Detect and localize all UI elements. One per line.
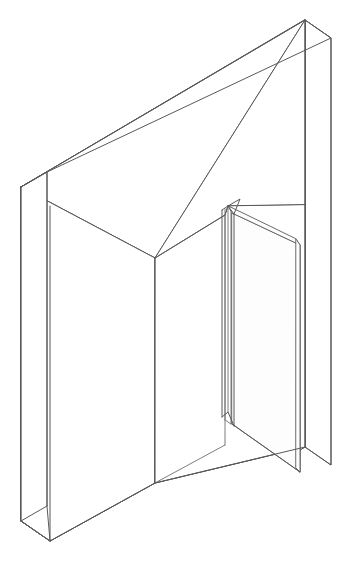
wall-right-return — [305, 20, 331, 465]
drawing-canvas — [0, 0, 356, 565]
wall-left-return — [21, 172, 50, 541]
isometric-wall-door-drawing — [0, 0, 356, 565]
